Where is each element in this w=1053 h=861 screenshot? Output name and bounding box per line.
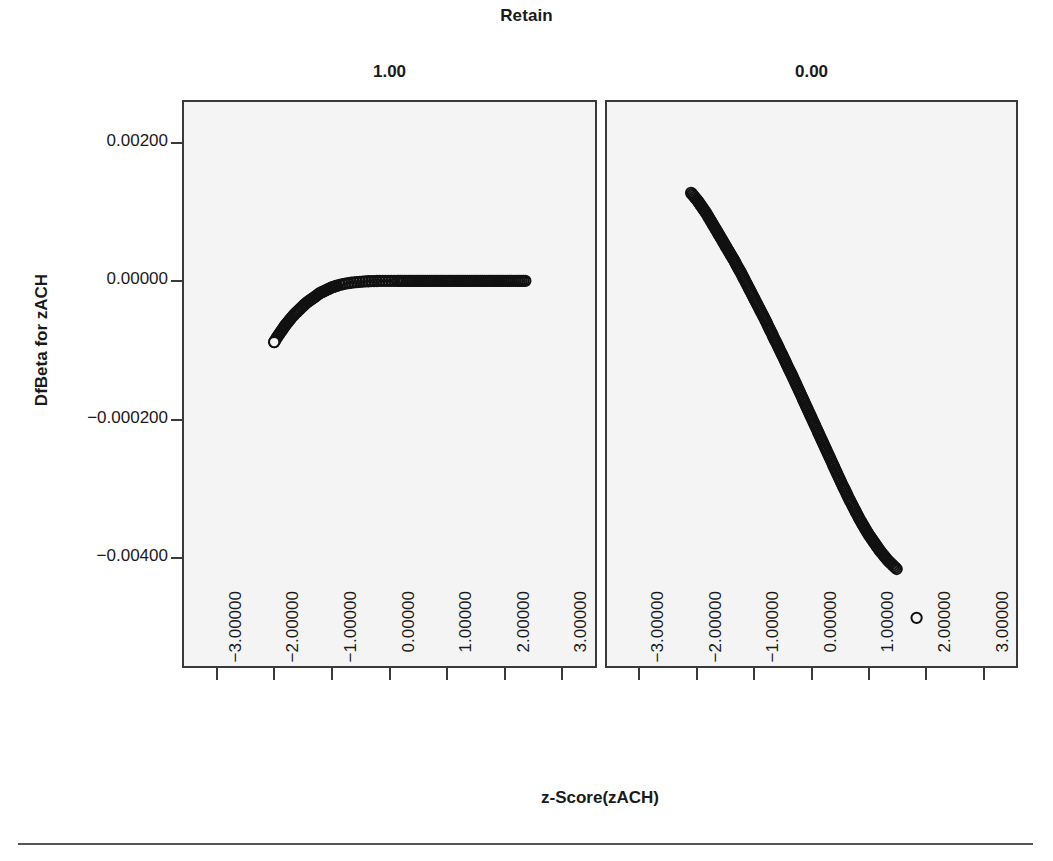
x-tick-label: 1.00000 — [878, 591, 898, 686]
y-tick-label: 0.00000 — [107, 269, 168, 289]
y-tick-mark — [171, 142, 182, 144]
x-tick-mark — [216, 668, 218, 680]
outlier-point — [269, 337, 279, 347]
x-tick-label: −2.00000 — [706, 591, 726, 686]
scatter-plot-retain-1 — [184, 102, 595, 666]
x-axis-title: z-Score(zACH) — [182, 788, 1018, 808]
y-tick-mark — [171, 280, 182, 282]
x-tick-label: −1.00000 — [763, 591, 783, 686]
x-tick-label: −2.00000 — [283, 591, 303, 686]
x-tick-mark — [273, 668, 275, 680]
y-tick-label: −0.00400 — [97, 546, 168, 566]
x-tick-label: 2.00000 — [935, 591, 955, 686]
data-point-group — [686, 188, 902, 575]
x-axis-retain-0: −3.00000−2.00000−1.000000.000001.000002.… — [605, 668, 1018, 788]
footer-divider — [18, 843, 1033, 845]
x-tick-mark — [696, 668, 698, 680]
y-axis: 0.002000.00000−0.000200−0.00400 — [0, 100, 182, 668]
scatter-plot-retain-0 — [607, 102, 1016, 666]
plot-panel-retain-1 — [182, 100, 597, 668]
y-tick-mark — [171, 419, 182, 421]
x-tick-label: −3.00000 — [648, 591, 668, 686]
plot-panel-retain-0 — [605, 100, 1018, 668]
x-tick-mark — [868, 668, 870, 680]
x-tick-mark — [638, 668, 640, 680]
y-tick-mark — [171, 557, 182, 559]
x-tick-label: 2.00000 — [514, 591, 534, 686]
x-tick-mark — [983, 668, 985, 680]
x-tick-label: 1.00000 — [456, 591, 476, 686]
y-tick-label: 0.00200 — [107, 131, 168, 151]
x-tick-mark — [811, 668, 813, 680]
x-tick-mark — [925, 668, 927, 680]
panel-header-retain-1: 1.00 — [182, 62, 597, 82]
x-axis-retain-1: −3.00000−2.00000−1.000000.000001.000002.… — [182, 668, 597, 788]
figure-title: Retain — [0, 6, 1053, 26]
x-tick-mark — [446, 668, 448, 680]
x-tick-label: 0.00000 — [399, 591, 419, 686]
x-tick-label: 3.00000 — [993, 591, 1013, 686]
figure-container: Retain 1.00 0.00 DfBeta for zACH z-Score… — [0, 0, 1053, 861]
x-tick-mark — [561, 668, 563, 680]
x-tick-mark — [753, 668, 755, 680]
x-tick-label: −1.00000 — [341, 591, 361, 686]
outlier-point — [911, 613, 921, 623]
x-tick-label: 0.00000 — [821, 591, 841, 686]
x-tick-label: −3.00000 — [226, 591, 246, 686]
data-point-group — [269, 276, 530, 348]
x-tick-mark — [504, 668, 506, 680]
panel-header-retain-0: 0.00 — [605, 62, 1018, 82]
y-tick-label: −0.000200 — [87, 408, 168, 428]
x-tick-mark — [389, 668, 391, 680]
x-tick-mark — [331, 668, 333, 680]
x-tick-label: 3.00000 — [571, 591, 591, 686]
